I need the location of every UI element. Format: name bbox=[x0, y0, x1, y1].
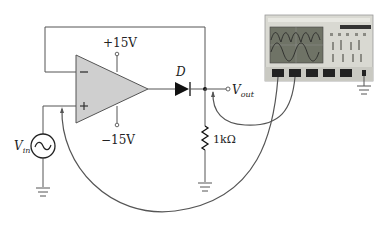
ground-icon bbox=[198, 183, 212, 191]
positive-supply-label: +15V bbox=[103, 37, 137, 49]
diode-label: D bbox=[176, 66, 186, 78]
resistor-label: 1kΩ bbox=[213, 134, 236, 145]
vout-terminal bbox=[226, 87, 230, 91]
channel-1-input bbox=[272, 69, 284, 77]
oscilloscope bbox=[265, 15, 373, 81]
ground-icon bbox=[357, 86, 371, 94]
resistor-icon bbox=[202, 126, 208, 150]
vout-label: Vout bbox=[232, 84, 254, 99]
channel-2-input bbox=[289, 69, 301, 77]
probe-cable-vout bbox=[213, 77, 295, 125]
circuit-diagram bbox=[0, 0, 385, 228]
op-amp-triangle bbox=[76, 55, 148, 123]
ground-icon bbox=[36, 188, 50, 196]
diode-icon bbox=[175, 82, 189, 96]
vin-label: Vin bbox=[14, 140, 30, 155]
negative-supply-terminal bbox=[115, 123, 119, 127]
positive-supply-terminal bbox=[115, 52, 119, 56]
negative-supply-label: −15V bbox=[101, 134, 135, 146]
